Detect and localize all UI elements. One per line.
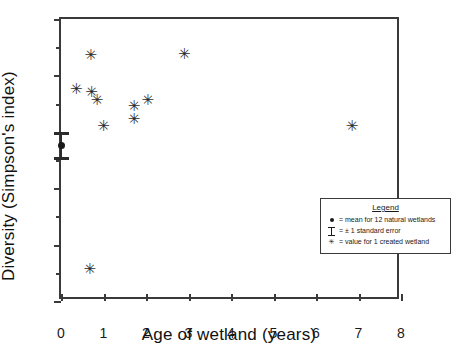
legend-entry-created: ✳ = value for 1 created wetland <box>326 237 445 247</box>
x-tick-label-4: 4 <box>227 325 235 341</box>
x-tick-0 <box>61 294 63 301</box>
data-point-asterisk: ✳ <box>70 83 83 96</box>
data-point-asterisk: ✳ <box>346 120 359 133</box>
x-tick-label-1: 1 <box>100 325 108 341</box>
y-tick-0.7 <box>54 188 61 190</box>
error-bar-cap-upper <box>54 132 69 135</box>
data-point-mean <box>58 142 65 149</box>
data-point-asterisk: ✳ <box>97 120 110 133</box>
x-tick-1 <box>104 294 106 301</box>
data-point-asterisk: ✳ <box>83 263 96 276</box>
error-bar-cap-lower <box>54 157 69 160</box>
data-point-asterisk: ✳ <box>141 94 154 107</box>
x-tick-5 <box>274 294 276 301</box>
x-tick-2 <box>146 294 148 301</box>
x-tick-label-2: 2 <box>142 325 150 341</box>
legend-entry-mean: = mean for 12 natural wetlands <box>326 215 445 225</box>
data-point-asterisk: ✳ <box>91 94 104 107</box>
data-point-asterisk: ✳ <box>128 113 141 126</box>
y-tick-1.0 <box>54 19 61 21</box>
data-point-asterisk: ✳ <box>178 48 191 61</box>
x-tick-label-5: 5 <box>270 325 278 341</box>
y-minor-tick-0.55 <box>56 273 61 275</box>
x-tick-8 <box>401 294 403 301</box>
error-bar-icon <box>326 226 337 236</box>
y-minor-tick-0.75 <box>56 160 61 162</box>
x-tick-7 <box>359 294 361 301</box>
x-tick-label-8: 8 <box>397 325 405 341</box>
x-tick-label-6: 6 <box>312 325 320 341</box>
x-tick-3 <box>189 294 191 301</box>
y-tick-0.5 <box>54 301 61 303</box>
data-point-asterisk: ✳ <box>84 49 97 62</box>
y-minor-tick-0.85 <box>56 104 61 106</box>
x-tick-label-0: 0 <box>57 325 65 341</box>
plot-area: 1 0.9 0.8 0.7 0.6 0.5 0 1 2 3 4 5 6 7 <box>59 17 399 299</box>
x-tick-6 <box>316 294 318 301</box>
y-axis-title: Diversity (Simpson's index) <box>0 0 20 352</box>
y-minor-tick-0.65 <box>56 216 61 218</box>
y-tick-0.6 <box>54 245 61 247</box>
y-minor-tick-0.95 <box>56 47 61 49</box>
legend: Legend = mean for 12 natural wetlands = … <box>320 198 451 254</box>
y-tick-0.9 <box>54 75 61 77</box>
legend-title: Legend <box>326 203 445 212</box>
legend-entry-created-label: = value for 1 created wetland <box>337 237 429 247</box>
x-tick-label-7: 7 <box>355 325 363 341</box>
legend-entry-mean-label: = mean for 12 natural wetlands <box>337 215 435 225</box>
legend-entry-error: = ± 1 standard error <box>326 226 445 236</box>
legend-entry-error-label: = ± 1 standard error <box>337 226 401 236</box>
x-tick-4 <box>231 294 233 301</box>
asterisk-icon: ✳ <box>326 237 337 247</box>
x-tick-label-3: 3 <box>185 325 193 341</box>
scatter-plot-figure: Diversity (Simpson's index) Age of wetla… <box>0 0 463 352</box>
filled-circle-icon <box>326 215 337 225</box>
